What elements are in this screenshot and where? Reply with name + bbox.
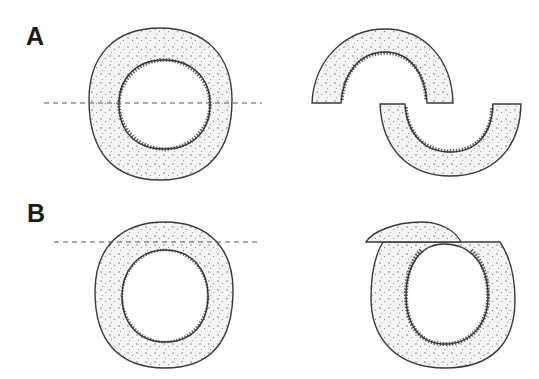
panel-b-cut-ring [371, 242, 515, 368]
panel-b-cap [366, 222, 461, 242]
panel-a-lower-half [380, 104, 521, 176]
panel-b-ring [54, 222, 258, 368]
panel-a-upper-half [312, 29, 453, 103]
cross-section-diagram [0, 0, 539, 379]
panel-a-ring [44, 28, 262, 180]
